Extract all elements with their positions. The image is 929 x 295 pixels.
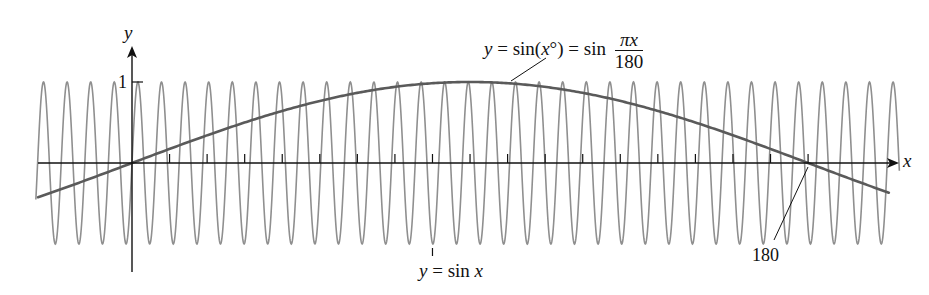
sine-comparison-chart	[0, 0, 929, 295]
eq2-y: y	[419, 260, 427, 281]
eq-sin-open: sin(	[513, 38, 542, 59]
sin-degrees-curve-label: y = sin(x°) = sin πx 180	[484, 30, 643, 71]
eq-equals-2: =	[568, 38, 579, 59]
eq-x: x	[541, 38, 549, 59]
y-tick-label-1: 1	[118, 72, 127, 93]
fraction-numerator: πx	[615, 30, 644, 51]
eq-y: y	[484, 38, 492, 59]
x-axis-ticks	[170, 154, 809, 163]
eq-equals-1: =	[497, 38, 508, 59]
eq-sin: sin	[584, 38, 606, 59]
eq2-x: x	[475, 260, 483, 281]
sin-x-curve-label: y = sin x	[419, 260, 483, 282]
eq-degree-close: °)	[550, 38, 564, 59]
fraction-denominator: 180	[615, 51, 644, 71]
eq-fraction: πx 180	[615, 30, 644, 71]
x-axis-label: x	[903, 150, 911, 172]
x-tick-label-180: 180	[752, 245, 779, 266]
y-axis-label: y	[124, 22, 132, 44]
eq2-sin: sin	[448, 260, 470, 281]
eq2-equals: =	[432, 260, 443, 281]
